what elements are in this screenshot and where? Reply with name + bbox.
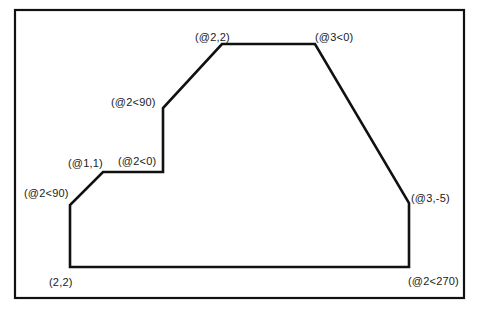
label-polar-up-2: (@2<90)	[111, 96, 156, 108]
label-start-point: (2,2)	[49, 276, 73, 288]
diagram-canvas	[0, 0, 486, 309]
label-polar-right-1: (@2<0)	[118, 155, 156, 167]
drawing-frame	[15, 10, 464, 298]
label-polar-down: (@2<270)	[408, 275, 459, 287]
label-relative-3-neg5: (@3,-5)	[411, 192, 450, 204]
label-relative-1-1: (@1,1)	[68, 157, 103, 169]
label-polar-up-1: (@2<90)	[24, 187, 69, 199]
label-relative-2-2: (@2,2)	[195, 31, 230, 43]
label-polar-right-2: (@3<0)	[315, 31, 353, 43]
